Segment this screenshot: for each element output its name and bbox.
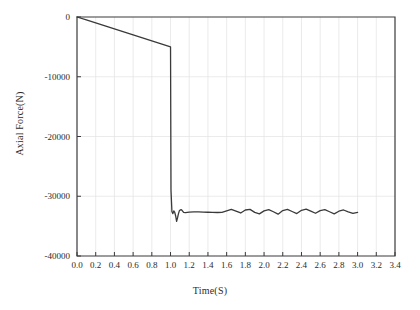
x-tick-label: 2.0	[258, 260, 270, 270]
x-tick-label: 2.6	[315, 260, 327, 270]
x-axis-title: Time(S)	[0, 285, 420, 296]
y-tick-label: 0	[66, 12, 71, 22]
x-tick-label: 0.4	[109, 260, 121, 270]
x-tick-label: 3.2	[371, 260, 382, 270]
y-axis-tick-labels: 0-10000-20000-30000-40000	[45, 12, 71, 261]
grid-lines	[77, 17, 395, 256]
y-tick-label: -10000	[45, 72, 71, 82]
x-tick-label: 1.6	[221, 260, 233, 270]
x-tick-label: 0.6	[127, 260, 139, 270]
y-axis-title: Axial Force(N)	[14, 74, 25, 174]
x-tick-label: 1.2	[184, 260, 195, 270]
y-tick-label: -20000	[45, 132, 71, 142]
y-tick-label: -40000	[45, 251, 71, 261]
x-tick-label: 1.4	[202, 260, 214, 270]
axial-force-chart-figure: 0.00.20.40.60.81.01.21.41.61.82.02.22.42…	[0, 0, 420, 310]
plot-canvas: 0.00.20.40.60.81.01.21.41.61.82.02.22.42…	[0, 0, 420, 310]
x-tick-label: 0.0	[71, 260, 83, 270]
x-tick-label: 0.2	[90, 260, 101, 270]
y-tick-label: -30000	[45, 191, 71, 201]
x-tick-label: 1.8	[240, 260, 252, 270]
x-tick-label: 0.8	[146, 260, 158, 270]
data-series-group	[77, 17, 358, 221]
x-axis-tick-labels: 0.00.20.40.60.81.01.21.41.61.82.02.22.42…	[71, 260, 401, 270]
x-tick-label: 2.2	[277, 260, 288, 270]
x-tick-label: 2.4	[296, 260, 308, 270]
x-tick-label: 1.0	[165, 260, 177, 270]
x-tick-label: 3.4	[389, 260, 401, 270]
x-tick-label: 3.0	[352, 260, 364, 270]
x-tick-label: 2.8	[333, 260, 345, 270]
data-line-axial-force	[77, 17, 358, 221]
